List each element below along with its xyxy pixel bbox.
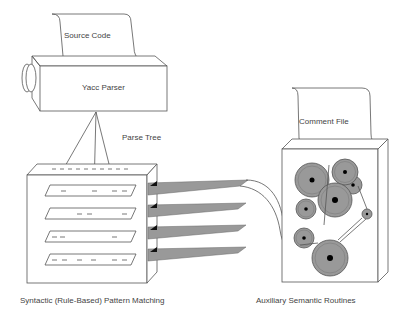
ribbon [148,225,246,239]
comment-file-label: Comment File [299,117,349,126]
diagram-canvas [0,0,406,315]
pattern-row [45,231,136,242]
pattern-matching-box [27,164,157,283]
gear-icon [332,159,358,185]
pattern-matching-label: Syntactic (Rule-Based) Pattern Matching [20,296,165,305]
gear-icon [312,240,348,276]
ribbon [148,203,246,217]
pattern-row [45,208,136,219]
gear-icon [362,209,372,219]
yacc-parser-label: Yacc Parser [82,83,125,92]
pattern-row [45,185,136,196]
ribbons [148,180,305,262]
pattern-row [45,254,136,265]
ribbon [148,247,246,261]
source-code-label: Source Code [64,31,111,40]
gear-icon [296,199,316,219]
semantic-routines-label: Auxiliary Semantic Routines [256,296,356,305]
gear-icon [294,228,314,248]
parse-tree-label: Parse Tree [122,133,161,142]
gear-icon [318,183,352,217]
ribbon [148,180,248,195]
